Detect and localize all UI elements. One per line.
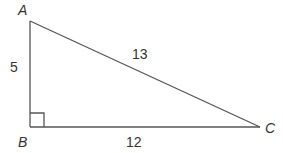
side-label-bc: 12 — [126, 134, 142, 150]
vertex-label-a: A — [17, 2, 27, 18]
triangle-svg: A B C 5 12 13 — [0, 0, 283, 153]
side-label-ab: 5 — [10, 59, 18, 75]
triangle-diagram: A B C 5 12 13 — [0, 0, 283, 153]
vertex-label-b: B — [18, 134, 27, 150]
side-ac-hypotenuse — [30, 21, 260, 127]
vertex-label-c: C — [265, 120, 276, 136]
side-label-ac: 13 — [132, 46, 148, 62]
right-angle-marker-icon — [30, 113, 44, 127]
